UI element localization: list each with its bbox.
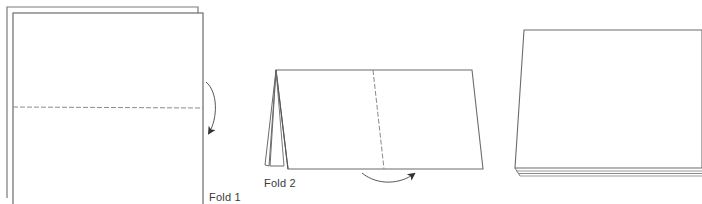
fold-right-arrow-icon [362,173,414,182]
folding-diagram [0,0,702,204]
tent-main-face [276,70,483,169]
step1-sheets [7,7,215,204]
front-sheet [13,13,203,204]
step2-tent [265,70,483,182]
fold-1-label: Fold 1 [209,191,241,203]
fold-down-arrow-icon [206,82,215,133]
step3-stack [515,30,702,176]
fold-2-label: Fold 2 [264,177,296,189]
stack-left-drop [515,168,520,176]
stack-top-sheet [515,30,702,168]
